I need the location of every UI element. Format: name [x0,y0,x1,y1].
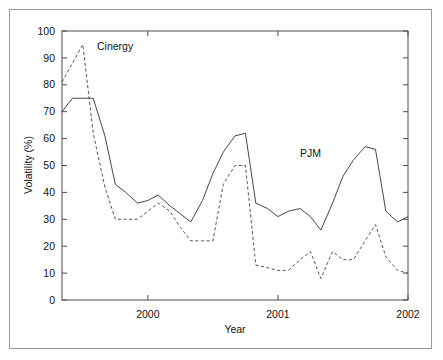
y-tick-label: 60 [43,132,55,144]
series-label-pjm: PJM [300,147,321,159]
y-axis-title: Volatility (%) [22,136,34,194]
y-tick-label: 20 [43,240,55,252]
series-label-cinergy: Cinergy [97,40,134,52]
y-tick-label: 50 [43,159,55,171]
volatility-line-chart: 0102030405060708090100 200020012002 Vola… [0,0,443,360]
x-tick-label: 2001 [266,308,290,320]
figure-canvas: 0102030405060708090100 200020012002 Vola… [0,0,443,360]
y-tick-label: 70 [43,105,55,117]
y-tick-label: 0 [49,294,55,306]
y-tick-label: 90 [43,52,55,64]
y-tick-label: 40 [43,186,55,198]
x-tick-label: 2000 [136,308,160,320]
x-tick-label: 2002 [396,308,420,320]
x-axis-title: Year [224,323,246,335]
y-tick-label: 30 [43,213,55,225]
y-tick-label: 10 [43,267,55,279]
y-tick-label: 100 [37,25,55,37]
y-tick-label: 80 [43,78,55,90]
